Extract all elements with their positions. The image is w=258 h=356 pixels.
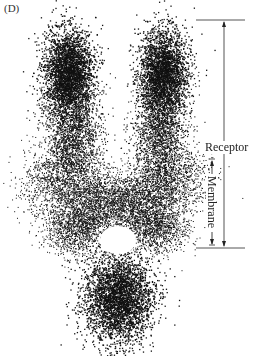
receptor-arrow-down-icon [222, 241, 226, 247]
receptor-arrow-up-icon [222, 21, 226, 27]
membrane-arrow-down-icon [210, 239, 214, 245]
scale-annotations [0, 0, 258, 356]
membrane-arrow-up-icon [210, 160, 214, 166]
receptor-label: Receptor [204, 141, 249, 154]
membrane-label: Membrane [206, 176, 218, 228]
